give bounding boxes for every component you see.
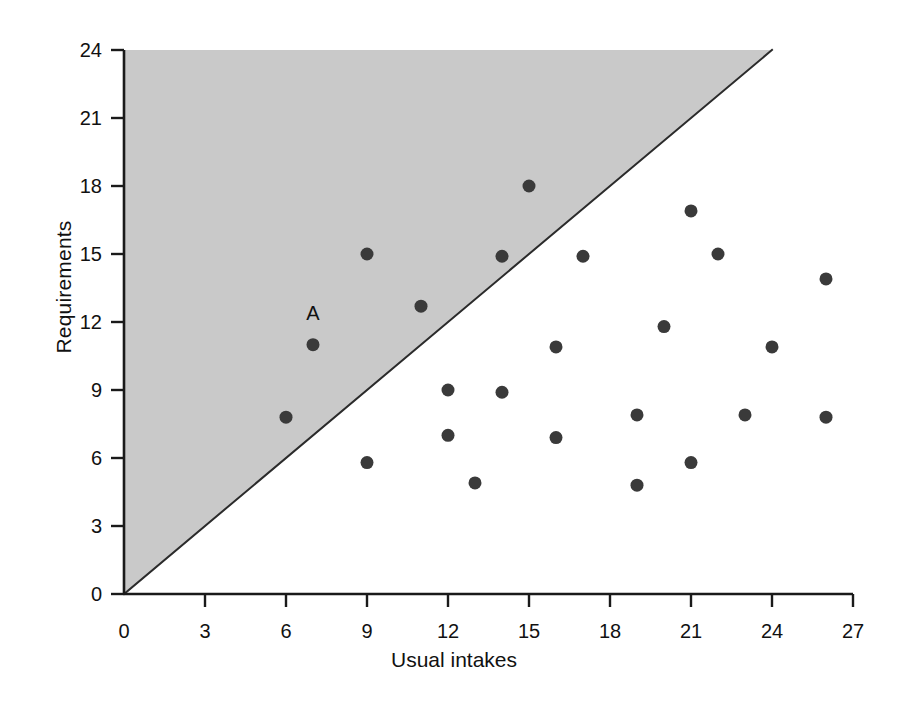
data-point (307, 338, 320, 351)
y-axis-label: Requirements (52, 177, 76, 397)
data-point (685, 204, 698, 217)
data-point (550, 340, 563, 353)
data-point (280, 411, 293, 424)
data-point (523, 180, 536, 193)
point-annotations-group: A (306, 302, 320, 324)
svg-text:24: 24 (80, 39, 102, 61)
data-point (469, 476, 482, 489)
svg-text:18: 18 (599, 620, 621, 642)
data-point (361, 248, 374, 261)
svg-text:0: 0 (91, 583, 102, 605)
svg-text:9: 9 (91, 379, 102, 401)
svg-text:15: 15 (518, 620, 540, 642)
data-point (361, 456, 374, 469)
data-point (631, 408, 644, 421)
data-point (442, 429, 455, 442)
svg-text:27: 27 (842, 620, 864, 642)
svg-text:12: 12 (80, 311, 102, 333)
x-axis-label: Usual intakes (124, 648, 784, 672)
svg-text:21: 21 (680, 620, 702, 642)
svg-text:24: 24 (761, 620, 783, 642)
svg-text:3: 3 (199, 620, 210, 642)
svg-text:6: 6 (91, 447, 102, 469)
data-point (712, 248, 725, 261)
x-axis-ticks: 0369121518212427 (118, 594, 864, 642)
chart-canvas: 03691215182124 0369121518212427 A (0, 0, 901, 701)
svg-text:12: 12 (437, 620, 459, 642)
data-point (496, 250, 509, 263)
svg-text:3: 3 (91, 515, 102, 537)
svg-text:9: 9 (361, 620, 372, 642)
data-point (415, 300, 428, 313)
data-point (442, 384, 455, 397)
point-label-A: A (306, 302, 320, 324)
svg-text:15: 15 (80, 243, 102, 265)
data-point (766, 340, 779, 353)
svg-text:21: 21 (80, 107, 102, 129)
svg-text:6: 6 (280, 620, 291, 642)
data-point (577, 250, 590, 263)
data-point (496, 386, 509, 399)
data-point (820, 411, 833, 424)
data-point (658, 320, 671, 333)
data-point (820, 272, 833, 285)
scatter-chart-figure: 03691215182124 0369121518212427 A Requir… (0, 0, 901, 701)
data-point (550, 431, 563, 444)
data-point (739, 408, 752, 421)
svg-text:0: 0 (118, 620, 129, 642)
svg-text:18: 18 (80, 175, 102, 197)
data-point (685, 456, 698, 469)
y-axis-ticks: 03691215182124 (80, 39, 124, 605)
data-point (631, 479, 644, 492)
